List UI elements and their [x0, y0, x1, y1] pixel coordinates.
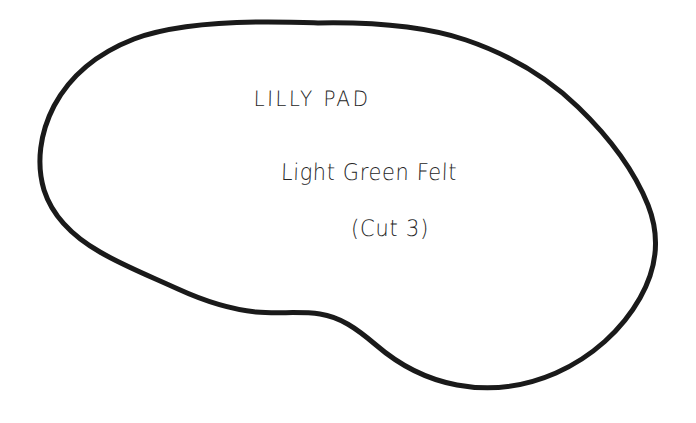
pattern-outline-path — [40, 22, 656, 388]
pattern-sheet: LILLY PAD Light Green Felt (Cut 3) — [0, 0, 696, 423]
pattern-outline-drawing — [0, 0, 696, 423]
